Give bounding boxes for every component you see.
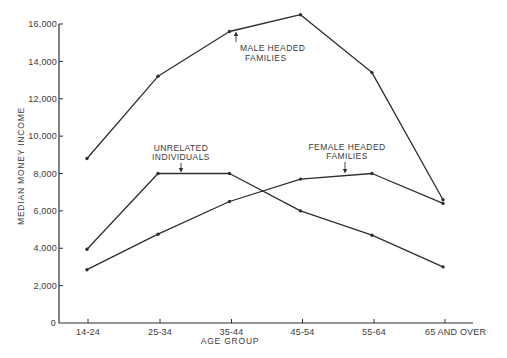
x-axis-ticks: 14-2425-3435-4445-5455-6465 AND OVER <box>76 319 487 337</box>
annotation-female-headed-families: FEMALE HEADED FAMILIES <box>309 142 386 174</box>
y-tick-label: 0 <box>51 318 56 328</box>
y-axis-ticks: 02,0004,0006,0008,00010,00012,00014,0001… <box>28 19 63 328</box>
series-line <box>87 174 443 270</box>
data-point <box>85 157 88 160</box>
y-tick-label: 10,000 <box>28 131 57 141</box>
y-tick-label: 8,000 <box>33 169 57 179</box>
data-point <box>441 202 444 205</box>
data-point <box>441 265 444 268</box>
axes <box>59 24 473 323</box>
data-point <box>370 172 373 175</box>
y-tick-label: 16,000 <box>28 19 57 29</box>
arrowhead-icon <box>343 169 347 174</box>
y-tick-label: 4,000 <box>33 243 57 253</box>
data-point <box>85 268 88 271</box>
x-tick-label: 45-54 <box>290 327 314 337</box>
data-point <box>299 209 302 212</box>
arrowhead-icon <box>234 32 238 37</box>
data-point <box>156 233 159 236</box>
annotation-label-line2: INDIVIDUALS <box>152 152 210 162</box>
y-axis-title: MEDIAN MONEY INCOME <box>16 107 26 225</box>
y-tick-label: 6,000 <box>33 206 57 216</box>
data-point <box>85 248 88 251</box>
y-tick-label: 14,000 <box>28 57 57 67</box>
series-line <box>87 174 443 267</box>
y-tick-label: 2,000 <box>33 281 57 291</box>
data-point <box>228 200 231 203</box>
data-point <box>156 172 159 175</box>
x-tick-label: 14-24 <box>76 327 100 337</box>
arrowhead-icon <box>179 168 183 173</box>
data-point <box>370 234 373 237</box>
y-tick-label: 12,000 <box>28 94 57 104</box>
annotation-label-line2: FAMILIES <box>245 53 286 63</box>
data-point <box>441 198 444 201</box>
x-tick-label: 65 AND OVER <box>425 327 487 337</box>
data-point <box>299 13 302 16</box>
data-point <box>228 172 231 175</box>
data-point <box>156 75 159 78</box>
x-tick-label: 55-64 <box>362 327 386 337</box>
x-axis-title: AGE GROUP <box>201 336 260 346</box>
series-female-headed-families <box>85 172 444 272</box>
annotation-male-headed-families: MALE HEADED FAMILIES <box>234 32 306 64</box>
annotation-label-line1: MALE HEADED <box>240 43 305 53</box>
series-male-headed-families <box>85 13 444 201</box>
data-point <box>228 30 231 33</box>
data-point <box>299 177 302 180</box>
annotation-unrelated-individuals: UNRELATED INDIVIDUALS <box>152 143 210 173</box>
data-point <box>370 71 373 74</box>
series-unrelated-individuals <box>85 172 444 269</box>
income-by-age-line-chart: 02,0004,0006,0008,00010,00012,00014,0001… <box>0 0 507 358</box>
annotation-label-line2: FAMILIES <box>326 151 367 161</box>
x-tick-label: 25-34 <box>148 327 172 337</box>
